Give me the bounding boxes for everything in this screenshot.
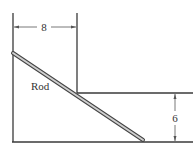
width-dimension: 8 xyxy=(14,21,76,33)
arrow-left-icon xyxy=(14,26,19,29)
rod xyxy=(13,53,143,140)
height-dimension: 6 xyxy=(172,94,178,141)
arrow-up-icon xyxy=(174,94,177,99)
arrow-right-icon xyxy=(71,26,76,29)
arrow-down-icon xyxy=(174,136,177,141)
rod-label: Rod xyxy=(31,80,50,92)
height-dimension-label: 6 xyxy=(172,112,178,124)
rod-in-corridor-diagram: 8 6 Rod xyxy=(0,0,196,149)
width-dimension-label: 8 xyxy=(41,21,47,33)
